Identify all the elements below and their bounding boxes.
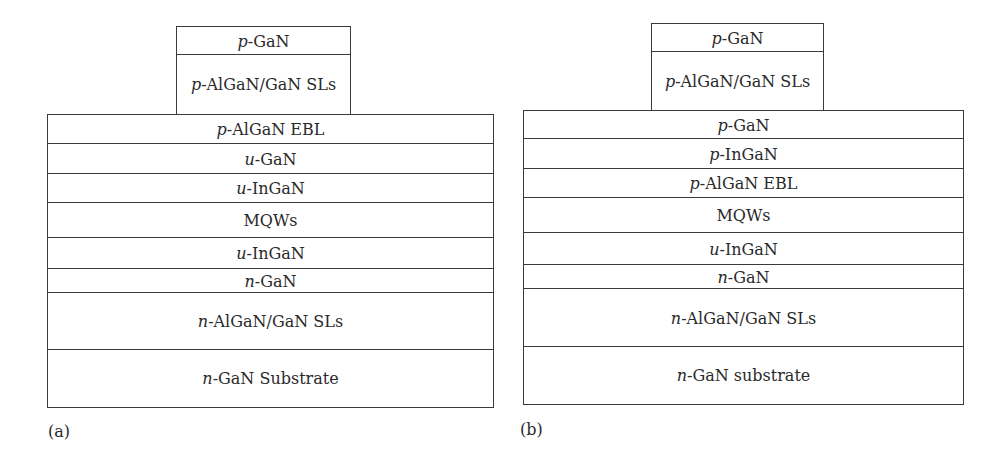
layer-name: -AlGaN EBL: [227, 120, 325, 139]
layer-name: -GaN: [248, 32, 290, 51]
layer-name: -AlGaN/GaN SLs: [208, 312, 343, 331]
layer-a-p-algan-ebl: p-AlGaN EBL: [47, 114, 494, 145]
doping-prefix: n: [671, 309, 681, 328]
layer-name: -AlGaN/GaN SLs: [675, 72, 810, 91]
doping-prefix: n: [717, 268, 727, 287]
layer-b-p-gan: p-GaN: [523, 110, 964, 140]
layer-b-u-ingan: u-InGaN: [523, 232, 964, 266]
doping-prefix: p: [217, 120, 227, 139]
doping-prefix: n: [202, 369, 212, 388]
layer-a-mesa-p-algan-gan-sls: p-AlGaN/GaN SLs: [176, 54, 351, 115]
layer-a-mesa-p-gan: p-GaN: [176, 26, 351, 56]
layer-name: -GaN: [255, 272, 297, 291]
panel-label-b: (b): [520, 420, 543, 439]
doping-prefix: p: [191, 75, 201, 94]
doping-prefix: u: [236, 179, 246, 198]
layer-b-n-gan-substrate: n-GaN substrate: [523, 346, 964, 405]
layer-a-n-gan-substrate: n-GaN Substrate: [47, 349, 494, 408]
layer-name: -InGaN: [246, 179, 304, 198]
doping-prefix: p: [238, 32, 248, 51]
doping-prefix: u: [709, 240, 719, 259]
doping-prefix: n: [677, 366, 687, 385]
doping-prefix: p: [712, 29, 722, 48]
doping-prefix: u: [236, 244, 246, 263]
layer-b-mesa-p-gan: p-GaN: [651, 23, 824, 53]
layer-name: -InGaN: [719, 240, 777, 259]
layer-a-u-gan: u-GaN: [47, 143, 494, 175]
layer-a-n-gan: n-GaN: [47, 268, 494, 294]
layer-name: -GaN: [728, 116, 770, 135]
layer-a-mqws: MQWs: [47, 202, 494, 239]
layer-name: MQWs: [716, 206, 770, 225]
layer-name: -InGaN: [719, 145, 777, 164]
layer-b-n-algan-gan-sls: n-AlGaN/GaN SLs: [523, 288, 964, 348]
layer-b-mesa-p-algan-gan-sls: p-AlGaN/GaN SLs: [651, 51, 824, 111]
layer-b-p-algan-ebl: p-AlGaN EBL: [523, 168, 964, 199]
doping-prefix: n: [244, 272, 254, 291]
layer-b-mqws: MQWs: [523, 197, 964, 234]
doping-prefix: u: [244, 150, 254, 169]
layer-name: -GaN Substrate: [213, 369, 339, 388]
layer-name: -GaN substrate: [687, 366, 810, 385]
layer-name: -GaN: [728, 268, 770, 287]
doping-prefix: p: [709, 145, 719, 164]
doping-prefix: p: [718, 116, 728, 135]
doping-prefix: p: [665, 72, 675, 91]
layer-name: -AlGaN/GaN SLs: [681, 309, 816, 328]
layer-a-u-ingan-2: u-InGaN: [47, 237, 494, 270]
layer-name: -AlGaN EBL: [700, 174, 798, 193]
layer-a-u-ingan: u-InGaN: [47, 173, 494, 204]
layer-b-n-gan: n-GaN: [523, 264, 964, 290]
layer-name: MQWs: [243, 211, 297, 230]
doping-prefix: p: [690, 174, 700, 193]
layer-b-p-ingan: p-InGaN: [523, 138, 964, 170]
layer-name: -InGaN: [246, 244, 304, 263]
doping-prefix: n: [198, 312, 208, 331]
layer-a-n-algan-gan-sls: n-AlGaN/GaN SLs: [47, 292, 494, 351]
layer-name: -GaN: [722, 29, 764, 48]
panel-label-a: (a): [48, 422, 70, 441]
layer-name: -AlGaN/GaN SLs: [201, 75, 336, 94]
layer-name: -GaN: [255, 150, 297, 169]
